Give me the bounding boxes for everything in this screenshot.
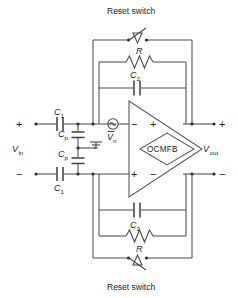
reset-switch-top-label: Reset switch	[107, 6, 155, 16]
resistor-top-label: R	[136, 46, 143, 56]
opamp-output-minus-sign: −	[150, 168, 156, 180]
capacitor-c2-bottom	[134, 203, 140, 218]
vout-sub: out	[210, 149, 219, 156]
ocmfb-label: OCMFB	[147, 145, 178, 154]
opamp-inverting-input-sign: −	[131, 118, 137, 130]
capacitor-c2-top	[134, 81, 140, 96]
capacitor-cp-top-sub: p	[65, 134, 69, 141]
capacitor-c1-bottom	[57, 167, 63, 181]
input-network	[34, 117, 129, 181]
svg-text:n: n	[113, 137, 117, 144]
output-minus-sign: −	[219, 168, 225, 180]
capacitor-c2-bottom-sub: 2	[137, 225, 141, 232]
noise-source-vn	[108, 119, 118, 129]
capacitor-cp-top	[72, 132, 85, 138]
opamp-output-plus-sign: +	[150, 118, 156, 130]
vin-sub: in	[19, 149, 24, 156]
reset-switch-top[interactable]	[127, 28, 148, 43]
resistor-bottom-label: R	[136, 244, 143, 254]
resistor-bottom	[126, 230, 153, 242]
noise-source-label: V n	[107, 132, 117, 144]
opamp-noninverting-input-sign: +	[131, 168, 137, 180]
capacitor-cp-bottom	[72, 158, 85, 164]
output-plus-sign: +	[219, 118, 225, 130]
capacitor-c2-top-sub: 2	[137, 75, 141, 82]
input-minus-sign: −	[16, 168, 22, 180]
output-terminal-minus-dot	[212, 172, 215, 175]
capacitor-cp-bottom-sub: p	[65, 154, 69, 161]
output-terminal-plus-dot	[212, 122, 215, 125]
circuit-diagram: Reset switch Reset switch R R C 2 C 2 C …	[0, 0, 238, 298]
resistor-top	[126, 56, 153, 68]
input-terminal-minus-dot	[34, 172, 37, 175]
reset-switch-bottom[interactable]	[127, 255, 148, 270]
input-plus-sign: +	[16, 118, 22, 130]
reset-switch-bottom-label: Reset switch	[107, 282, 155, 292]
capacitor-c1-top-sub: 1	[61, 112, 65, 119]
ground-symbol	[90, 142, 102, 148]
capacitor-c1-bottom-sub: 1	[61, 188, 65, 195]
input-terminal-plus-dot	[34, 122, 37, 125]
